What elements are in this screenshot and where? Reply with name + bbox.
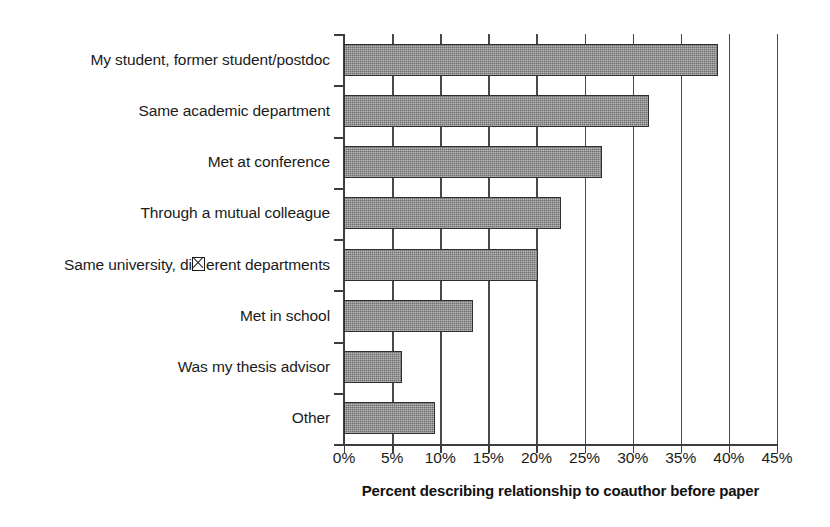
bar — [344, 95, 649, 127]
x-axis-line — [343, 444, 777, 446]
plot-area — [344, 34, 777, 444]
y-axis-tick — [334, 239, 344, 241]
y-axis-tick — [334, 137, 344, 139]
y-axis-tick — [334, 290, 344, 292]
x-axis-tick-label: 45% — [747, 449, 807, 467]
y-axis-tick — [334, 188, 344, 190]
y-axis-tick — [334, 444, 344, 446]
y-axis-tick — [334, 34, 344, 36]
category-label: Through a mutual colleague — [0, 204, 330, 221]
x-axis-title: Percent describing relationship to coaut… — [344, 482, 777, 499]
bar — [344, 44, 718, 76]
bar — [344, 249, 538, 281]
category-label: Met at conference — [0, 153, 330, 170]
category-label: Same university, dierent departments — [0, 256, 330, 273]
category-label: Same academic department — [0, 102, 330, 119]
category-label: My student, former student/postdoc — [0, 51, 330, 68]
bar — [344, 146, 602, 178]
category-label: Other — [0, 409, 330, 426]
horizontal-bar-chart: My student, former student/postdocSame a… — [0, 0, 830, 527]
y-axis-tick — [334, 342, 344, 344]
category-axis-labels: My student, former student/postdocSame a… — [0, 34, 330, 444]
bar — [344, 351, 402, 383]
bar — [344, 300, 473, 332]
gridline-vertical — [681, 34, 682, 444]
y-axis-tick — [334, 393, 344, 395]
y-axis-tick — [334, 85, 344, 87]
bar — [344, 402, 435, 434]
gridline-vertical — [729, 34, 730, 444]
category-label: Met in school — [0, 307, 330, 324]
category-label: Was my thesis advisor — [0, 358, 330, 375]
missing-glyph-icon — [192, 257, 205, 271]
gridline-vertical — [777, 34, 778, 444]
bar — [344, 197, 561, 229]
